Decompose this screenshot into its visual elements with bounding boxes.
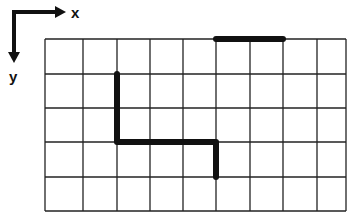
coordinate-grid-diagram: x y (0, 0, 354, 222)
diagram-canvas: x y (0, 0, 354, 222)
x-axis-label: x (71, 4, 80, 21)
y-axis-label: y (9, 68, 18, 85)
grid (45, 39, 346, 211)
axis-indicator: x y (8, 4, 80, 85)
stepped-path (117, 74, 216, 177)
